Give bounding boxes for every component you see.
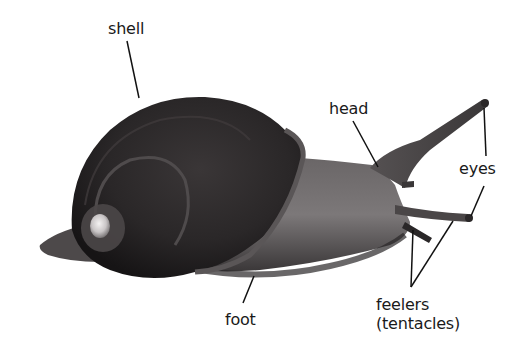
snail-diagram: shell head eyes foot feelers (tentacles) (0, 0, 524, 351)
feelers-leader-line-left (411, 230, 413, 287)
eye-upper (481, 99, 489, 107)
eyes-leader-line-lower (471, 186, 484, 216)
label-feelers: feelers (376, 296, 429, 314)
label-shell: shell (108, 20, 144, 38)
snail-illustration (0, 0, 524, 351)
shell-apex (90, 214, 110, 238)
label-foot: foot (225, 311, 256, 329)
head-leader-line (353, 121, 378, 167)
label-tentacles: (tentacles) (376, 315, 460, 333)
foot-leader-line (243, 276, 254, 303)
label-eyes: eyes (459, 160, 496, 178)
short-feeler-top (402, 181, 414, 188)
label-head: head (329, 100, 368, 118)
shell-leader-line (127, 41, 139, 98)
eyes-leader-line-upper (484, 108, 486, 156)
